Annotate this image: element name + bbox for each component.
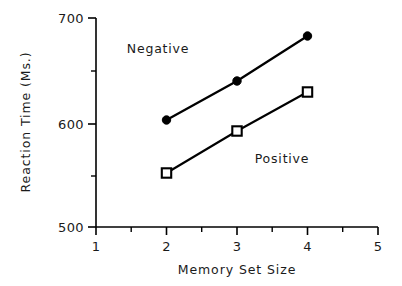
line-chart-canvas: 700 600 500 1 2 3 4 5 Memory Set S: [0, 0, 402, 286]
series-negative-point-4: [303, 32, 311, 40]
chart-background: [0, 0, 402, 286]
x-tick-label-2: 2: [162, 239, 171, 254]
series-negative-point-3: [233, 77, 241, 85]
annotation-positive: Positive: [255, 151, 310, 166]
series-negative-point-2: [162, 116, 170, 124]
x-tick-label-3: 3: [233, 239, 242, 254]
x-tick-label-5: 5: [374, 239, 383, 254]
y-tick-label-700: 700: [58, 11, 84, 26]
y-axis-title: Reaction Time (Ms.): [18, 52, 33, 193]
series-positive-point-3: [232, 126, 241, 135]
y-tick-label-600: 600: [58, 117, 84, 132]
x-axis-title: Memory Set Size: [178, 262, 296, 277]
series-positive-point-4: [303, 87, 312, 96]
x-tick-label-4: 4: [303, 239, 312, 254]
series-positive-point-2: [162, 168, 171, 177]
x-tick-label-1: 1: [92, 239, 101, 254]
chart-figure: 700 600 500 1 2 3 4 5 Memory Set S: [0, 0, 402, 286]
y-tick-label-500: 500: [58, 220, 84, 235]
annotation-negative: Negative: [127, 41, 190, 56]
